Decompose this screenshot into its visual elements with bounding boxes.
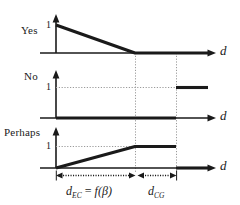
perhaps-xaxis-variable: d <box>220 158 227 174</box>
d-cg-span-arrow-right <box>170 172 177 178</box>
panel-perhaps <box>40 127 216 172</box>
perhaps-x-axis-arrowhead <box>208 164 217 171</box>
yes-ytick-1: 1 <box>46 19 51 30</box>
yes-curve <box>56 25 208 53</box>
panel-no <box>40 70 216 122</box>
d-ec-span-arrow-left <box>56 172 63 178</box>
perhaps-ytick-1: 1 <box>46 140 51 151</box>
d-ec-expression: f(β) <box>95 184 112 198</box>
yes-y-axis-arrowhead <box>53 14 60 23</box>
yes-xaxis-variable: d <box>220 43 227 59</box>
perhaps-y-axis-arrowhead <box>53 127 60 136</box>
d-cg-span-arrow-left <box>138 172 145 178</box>
d-ec-subscript: EC <box>72 191 82 200</box>
d-cg-subscript: CG <box>154 191 165 200</box>
no-ytick-1: 1 <box>46 81 51 92</box>
d-cg-span-label: dCG <box>148 184 165 200</box>
d-ec-relation: = <box>85 184 92 198</box>
d-ec-span-label: dEC = f(β) <box>66 184 112 200</box>
perhaps-curve <box>56 147 176 169</box>
span-measure-bars <box>56 171 177 181</box>
panel-yes <box>40 14 216 57</box>
panel-label-no: No <box>24 70 38 82</box>
no-x-axis-arrowhead <box>208 114 217 121</box>
d-ec-span-arrow-right <box>129 172 136 178</box>
no-y-axis-arrowhead <box>53 70 60 79</box>
panel-label-perhaps: Perhaps <box>4 126 40 138</box>
panel-label-yes: Yes <box>21 24 38 36</box>
yes-x-axis-arrowhead <box>208 49 217 56</box>
no-xaxis-variable: d <box>220 108 227 124</box>
